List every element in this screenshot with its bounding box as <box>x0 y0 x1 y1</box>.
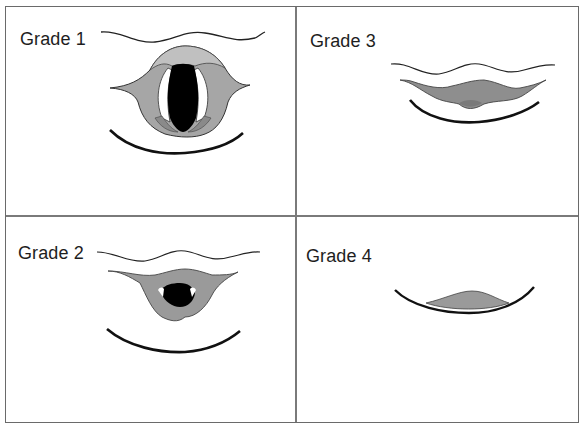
grade-2-larynx-illustration <box>0 215 294 426</box>
panel-grade-1: Grade 1 <box>0 0 294 215</box>
grade-4-larynx-illustration <box>294 215 581 426</box>
panel-grade-3: Grade 3 <box>294 0 581 215</box>
panel-grade-4: Grade 4 <box>294 215 581 426</box>
panel-grade-2: Grade 2 <box>0 215 294 426</box>
grade-3-larynx-illustration <box>294 0 581 215</box>
grade-1-larynx-illustration <box>0 0 294 215</box>
